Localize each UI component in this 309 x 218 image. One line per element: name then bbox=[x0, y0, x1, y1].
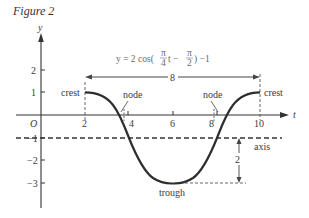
origin-label: O bbox=[30, 118, 37, 129]
t-axis-arrow-icon bbox=[280, 112, 289, 118]
t-axis-label: t bbox=[293, 109, 296, 120]
amplitude-arrow-up-icon bbox=[237, 138, 242, 144]
node-pointer-left bbox=[121, 101, 128, 112]
svg-text:) −1: ) −1 bbox=[194, 54, 210, 65]
y-axis-arrow-icon bbox=[38, 33, 44, 42]
midline-label: axis bbox=[254, 141, 270, 152]
period-arrow-right-icon bbox=[253, 75, 260, 80]
node-label-right: node bbox=[203, 89, 223, 100]
y-tick-label: 1 bbox=[31, 87, 36, 98]
svg-text:y = 2 cos(: y = 2 cos( bbox=[116, 54, 154, 65]
amplitude-arrow-down-icon bbox=[237, 177, 242, 183]
svg-text:π: π bbox=[187, 48, 192, 58]
equation: y = 2 cos( π 4 t − π 2 ) −1 bbox=[116, 48, 210, 68]
t-tick-label: 8 bbox=[209, 118, 214, 129]
crest-label-right: crest bbox=[264, 87, 283, 98]
svg-text:π: π bbox=[161, 48, 166, 58]
period-arrow-left-icon bbox=[85, 75, 92, 80]
y-tick-label: 2 bbox=[31, 65, 36, 76]
svg-text:t −: t − bbox=[168, 54, 178, 64]
svg-text:4: 4 bbox=[161, 58, 166, 68]
t-ticks bbox=[128, 111, 217, 115]
y-tick-label: −3 bbox=[27, 178, 38, 189]
y-axis-label: y bbox=[37, 22, 43, 33]
t-tick-label: 2 bbox=[82, 118, 87, 129]
node-pointer-right bbox=[211, 101, 218, 112]
amplitude-label: 2 bbox=[235, 154, 240, 165]
wave-chart: y t O 2 1 −1 −2 −3 2 4 6 8 10 8 y = 2 co… bbox=[0, 0, 309, 218]
y-ticks bbox=[41, 70, 45, 183]
node-label-left: node bbox=[123, 89, 143, 100]
y-tick-label: −2 bbox=[27, 155, 38, 166]
t-tick-label: 4 bbox=[129, 118, 134, 129]
svg-text:2: 2 bbox=[187, 58, 192, 68]
period-label: 8 bbox=[170, 72, 175, 83]
trough-label: trough bbox=[159, 187, 185, 198]
t-tick-label: 6 bbox=[170, 118, 175, 129]
t-tick-label: 10 bbox=[254, 118, 264, 129]
crest-label-left: crest bbox=[61, 87, 80, 98]
